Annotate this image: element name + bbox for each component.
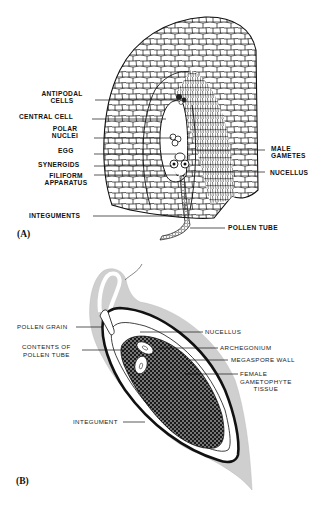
label-contents-of-pollen-tube: CONTENTS OF POLLEN TUBE (22, 343, 71, 358)
label-filiform-apparatus: FILIFORM APPARATUS (38, 172, 94, 187)
label-line: POLLEN TUBE (22, 351, 71, 359)
label-male-gametes: MALE GAMETES (271, 145, 306, 160)
panel-b-gymnosperm-ovule: POLLEN GRAIN CONTENTS OF POLLEN TUBE INT… (0, 250, 326, 508)
label-antipodal-cells: ANTIPODAL CELLS (34, 90, 90, 105)
label-line: CELLS (34, 97, 90, 104)
label-integument: INTEGUMENT (73, 418, 118, 426)
label-line: GAMETES (271, 152, 306, 159)
label-line: CONTENTS OF (22, 343, 71, 351)
label-line: APPARATUS (38, 179, 94, 186)
label-line: ANTIPODAL (34, 90, 90, 97)
label-line: POLAR (40, 125, 90, 132)
label-line: MALE (271, 145, 306, 152)
label-megaspore-wall: MEGASPORE WALL (231, 356, 295, 364)
panel-a-angiosperm-ovule: ANTIPODAL CELLS CENTRAL CELL POLAR NUCLE… (0, 0, 326, 250)
label-integuments: INTEGUMENTS (29, 212, 80, 219)
label-nucellus: NUCELLUS (270, 169, 308, 176)
label-female-gametophyte-tissue: FEMALE GAMETOPHYTE TISSUE (240, 370, 292, 393)
label-archegonium: ARCHEGONIUM (220, 344, 272, 352)
label-central-cell: CENTRAL CELL (19, 113, 73, 120)
label-nucellus-b: NUCELLUS (205, 328, 241, 336)
label-egg: EGG (58, 147, 74, 154)
label-pollen-grain: POLLEN GRAIN (17, 323, 68, 331)
label-line: FILIFORM (38, 172, 94, 179)
label-line: TISSUE (240, 385, 292, 393)
panel-label-b: (B) (16, 476, 29, 486)
label-line: FEMALE (240, 370, 292, 378)
label-synergids: SYNERGIDS (38, 161, 80, 168)
label-line: GAMETOPHYTE (240, 378, 292, 386)
label-polar-nuclei: POLAR NUCLEI (40, 125, 90, 140)
panel-label-a: (A) (17, 229, 30, 239)
label-line: NUCLEI (40, 132, 90, 139)
label-pollen-tube: POLLEN TUBE (228, 224, 278, 231)
